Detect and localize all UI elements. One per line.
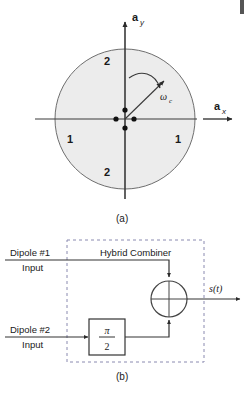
x-axis-label: a x bbox=[214, 100, 227, 116]
y-axis-label-main: a bbox=[132, 11, 139, 23]
rotation-rate-symbol: ω bbox=[160, 91, 167, 102]
panel-a-caption: (a) bbox=[116, 213, 128, 224]
dipole2-label-line1: Dipole #2 bbox=[10, 324, 50, 335]
dipole1-label-line1: Dipole #1 bbox=[10, 247, 50, 258]
phase-dot-bottom bbox=[122, 125, 127, 130]
region-label-right: 1 bbox=[175, 133, 181, 145]
output-label: s(t) bbox=[209, 283, 223, 295]
figure-root: a y a x ω c 1 1 2 bbox=[0, 0, 247, 396]
dipole1-label-line2: Input bbox=[22, 262, 43, 273]
x-axis-label-sub: x bbox=[221, 107, 227, 116]
phase-dot-right bbox=[131, 116, 136, 121]
region-label-bottom: 2 bbox=[104, 166, 110, 178]
dipole2-label-line2: Input bbox=[22, 339, 43, 350]
phase-dot-left bbox=[113, 116, 118, 121]
figure-canvas: a y a x ω c 1 1 2 bbox=[0, 0, 247, 396]
y-axis-label: a y bbox=[132, 11, 145, 27]
phase-to-summer-path bbox=[125, 320, 169, 337]
panel-b-caption: (b) bbox=[116, 371, 128, 382]
phase-shift-denominator: 2 bbox=[105, 341, 110, 352]
x-axis-label-main: a bbox=[214, 100, 221, 112]
region-label-left: 1 bbox=[67, 133, 73, 145]
page-corner-mark bbox=[240, 0, 244, 14]
hybrid-combiner-title: Hybrid Combiner bbox=[100, 247, 171, 258]
y-axis-label-sub: y bbox=[139, 18, 145, 27]
panel-a-group: a y a x ω c 1 1 2 bbox=[35, 11, 232, 224]
region-label-top: 2 bbox=[104, 55, 110, 67]
panel-b-group: Hybrid Combiner Dipole #1 Input Dipole #… bbox=[5, 240, 240, 382]
phase-dot-top bbox=[122, 107, 127, 112]
